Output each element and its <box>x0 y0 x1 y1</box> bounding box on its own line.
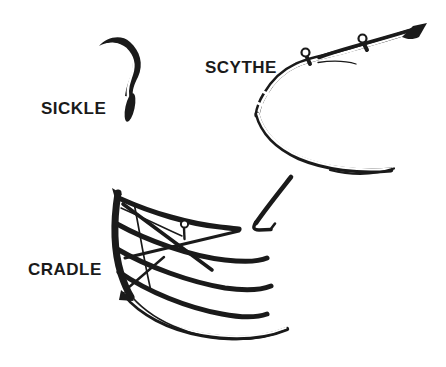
illustration-page: SICKLE SCYTHE CRADLE <box>0 0 446 367</box>
cradle-drawing-icon <box>112 177 291 340</box>
cradle-label: CRADLE <box>28 261 102 278</box>
tools-line-art <box>0 0 446 367</box>
scythe-drawing-icon <box>257 23 427 174</box>
scythe-label: SCYTHE <box>205 59 277 76</box>
cradle-nib <box>184 228 185 239</box>
sickle-label: SICKLE <box>41 100 106 117</box>
